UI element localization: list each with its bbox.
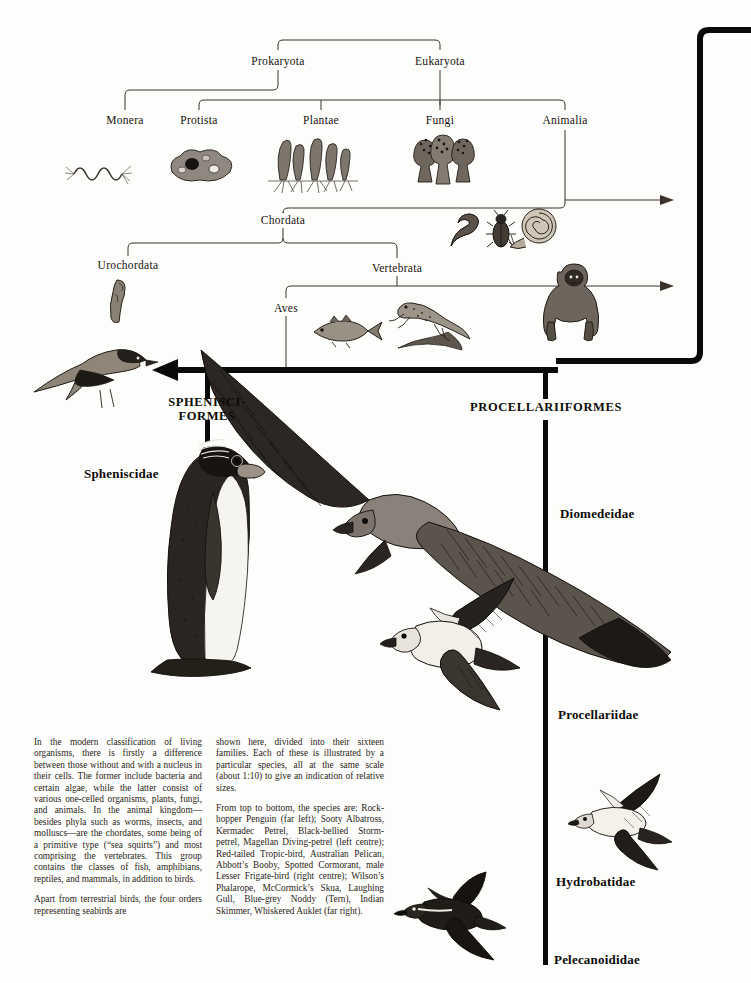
taxon-label-urochordata: Urochordata xyxy=(98,259,159,271)
taxon-label-chordata: Chordata xyxy=(261,214,306,226)
taxon-label-animalia: Animalia xyxy=(542,114,587,126)
body-text-column-left: In the modern classification of living o… xyxy=(34,737,202,926)
plant-algae-illustration xyxy=(268,128,358,194)
family-label-spheniscidae: Spheniscidae xyxy=(84,466,159,482)
terrestrial-bird-illustration xyxy=(18,344,158,416)
taxon-label-eukaryota: Eukaryota xyxy=(415,55,465,67)
taxon-label-plantae: Plantae xyxy=(303,114,339,126)
order-label-procellariiformes: PROCELLARIIFORMES xyxy=(470,401,622,415)
protist-illustration xyxy=(166,144,238,188)
worm-illustration xyxy=(440,210,484,248)
black-bellied-storm-petrel-illustration xyxy=(568,764,688,874)
diagram-page: Prokaryota Eukaryota Monera Protista Pla… xyxy=(0,0,751,983)
family-label-procellariidae: Procellariidae xyxy=(558,707,639,723)
snail-illustration xyxy=(508,206,564,254)
order-label-sphenisciformes-line1: SPHENISCI- xyxy=(168,395,246,409)
body-paragraph-right-2: From top to bottom, the species are: Roc… xyxy=(216,803,384,917)
tunicate-illustration xyxy=(103,278,135,326)
taxon-label-fungi: Fungi xyxy=(426,114,454,126)
body-paragraph-right-1: shown here, divided into their sixteen f… xyxy=(216,737,384,794)
family-label-hydrobatidae: Hydrobatidae xyxy=(556,874,635,890)
family-label-pelecanoididae: Pelecanoididae xyxy=(554,952,640,968)
kermadec-petrel-illustration xyxy=(360,572,540,732)
gorilla-illustration xyxy=(540,262,610,344)
taxon-label-aves: Aves xyxy=(274,302,298,314)
order-label-sphenisciformes-line2: FORMES xyxy=(178,409,235,423)
taxon-label-vertebrata: Vertebrata xyxy=(372,262,422,274)
taxon-label-protista: Protista xyxy=(180,114,218,126)
body-text-column-right: shown here, divided into their sixteen f… xyxy=(216,737,384,926)
taxon-label-prokaryota: Prokaryota xyxy=(251,55,304,67)
order-label-procellariiformes-line1: PROCELLARIIFORMES xyxy=(470,400,622,414)
taxon-label-monera: Monera xyxy=(106,114,144,126)
fungi-illustration xyxy=(406,128,480,190)
order-label-sphenisciformes: SPHENISCI- FORMES xyxy=(168,396,246,423)
body-paragraph-left-2: Apart from terrestrial birds, the four o… xyxy=(34,894,202,917)
fish-illustration xyxy=(310,314,386,348)
body-paragraph-left-1: In the modern classification of living o… xyxy=(34,737,202,885)
magellan-diving-petrel-illustration xyxy=(392,866,522,971)
family-label-diomedeidae: Diomedeidae xyxy=(560,506,634,522)
bacterium-illustration xyxy=(64,148,140,190)
